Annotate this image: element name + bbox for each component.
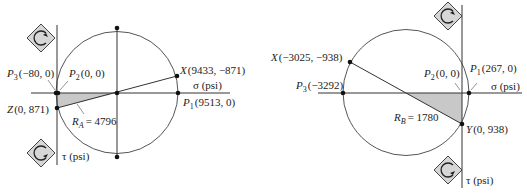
- mohr-circles-figure: P3(−80, 0) P2(0, 0) Z(0, 871) RA= 4796 X…: [0, 0, 527, 193]
- point-x-b: [348, 60, 353, 65]
- clockwise-rotation-icon: [434, 2, 462, 30]
- point-z-a: [55, 106, 60, 111]
- point-p1-a: [176, 91, 181, 96]
- point-center-a: [115, 91, 120, 96]
- label-x-a: X(9433, −871): [179, 64, 246, 77]
- label-radius-b: RB= 1780: [393, 111, 439, 126]
- mohr-circle-b: X(−3025, −938) P3(−3292) P2(0, 0) P1(267…: [270, 2, 522, 188]
- point-p2-a: [56, 91, 61, 96]
- clockwise-rotation-icon: [27, 24, 55, 52]
- label-y-b: Y(0, 938): [466, 123, 508, 136]
- label-tau-a: τ (psi): [62, 150, 90, 163]
- counterclockwise-rotation-icon: [27, 139, 55, 167]
- label-sigma-b: σ (psi): [491, 80, 520, 93]
- point-p1-b: [467, 91, 472, 96]
- label-p1-a: P1(9513, 0): [182, 96, 235, 111]
- label-tau-b: τ (psi): [466, 174, 494, 187]
- label-p3-b: P3(−3292): [295, 79, 344, 94]
- point-x-a: [175, 74, 180, 79]
- label-z-a: Z(0, 871): [7, 103, 49, 116]
- label-p3-a: P3(−80, 0): [6, 67, 55, 82]
- label-sigma-a: σ (psi): [193, 79, 222, 92]
- point-top-a: [115, 26, 120, 31]
- counterclockwise-rotation-icon: [434, 156, 462, 184]
- point-bottom-a: [115, 155, 120, 160]
- point-p3-b: [341, 91, 346, 96]
- mohr-circle-a: P3(−80, 0) P2(0, 0) Z(0, 871) RA= 4796 X…: [6, 24, 246, 167]
- point-y-b: [460, 122, 465, 127]
- label-p2-b: P2(0, 0): [423, 67, 460, 82]
- label-p1-b: P1(267, 0): [469, 62, 517, 77]
- label-p2-a: P2(0, 0): [68, 67, 105, 82]
- label-x-b: X(−3025, −938): [270, 51, 343, 64]
- label-radius-a: RA= 4796: [71, 115, 117, 130]
